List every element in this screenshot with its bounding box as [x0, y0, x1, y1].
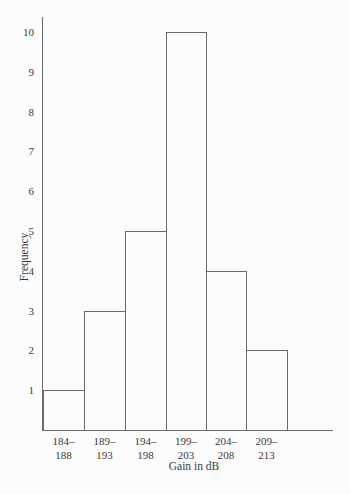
x-tick-label-209–213: 209–213 [245, 435, 289, 462]
bar-209–213 [246, 350, 288, 430]
y-tick-label-6: 6 [0, 184, 34, 198]
y-tick-label-2: 2 [0, 343, 34, 357]
y-tick-label-7: 7 [0, 144, 34, 158]
bar-194–198 [125, 231, 167, 430]
bar-199–203 [166, 32, 207, 430]
x-tick-label-204–208: 204–208 [204, 435, 248, 462]
y-axis-line [42, 17, 43, 431]
y-tick-label-3: 3 [0, 304, 34, 318]
x-axis-label: Gain in dB [124, 460, 264, 472]
x-tick-label-184–188: 184–188 [42, 435, 86, 462]
x-tick-label-199–203: 199–203 [164, 435, 208, 462]
bar-184–188 [43, 390, 85, 430]
bar-189–193 [84, 311, 126, 430]
bar-204–208 [206, 271, 247, 430]
x-tick-label-189–193: 189–193 [83, 435, 127, 462]
x-axis-line [42, 430, 333, 431]
y-tick-label-5: 5 [0, 224, 34, 238]
x-tick-label-194–198: 194–198 [124, 435, 168, 462]
y-tick-label-8: 8 [0, 105, 34, 119]
y-tick-label-1: 1 [0, 383, 34, 397]
y-tick-label-9: 9 [0, 65, 34, 79]
y-tick-label-4: 4 [0, 264, 34, 278]
histogram-figure: Frequency 12345678910 184–188189–193194–… [0, 0, 350, 494]
y-tick-label-10: 10 [0, 25, 34, 39]
